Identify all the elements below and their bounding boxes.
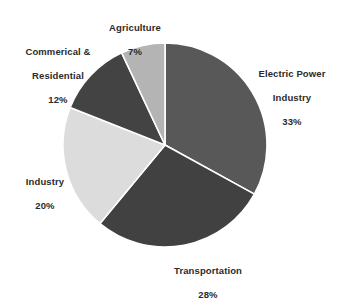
slice-percent: 7%: [83, 46, 187, 58]
slice-label-line1: Electric Power: [248, 68, 336, 80]
slice-percent: 12%: [2, 94, 114, 106]
slice-percent: 20%: [2, 200, 88, 212]
slice-label-line1: Industry: [2, 176, 88, 188]
slice-label-line1: Agriculture: [83, 22, 187, 34]
slice-label-electric-power-industry: Electric Power Industry 33%: [248, 56, 336, 140]
slice-label-line1: Transportation: [150, 265, 266, 277]
slice-percent: 28%: [150, 289, 266, 301]
slice-label-agriculture: Agriculture 7%: [83, 10, 187, 70]
slice-label-transportation: Transportation 28%: [150, 253, 266, 302]
slice-label-line2: Residential: [2, 70, 114, 82]
slice-label-industry: Industry 20%: [2, 164, 88, 224]
slice-percent: 33%: [248, 116, 336, 128]
slice-label-line2: Industry: [248, 92, 336, 104]
